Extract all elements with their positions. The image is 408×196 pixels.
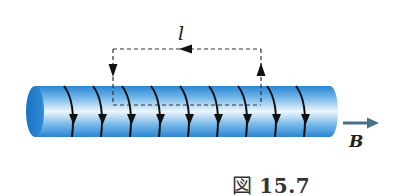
loop-arrow-up-icon — [257, 63, 266, 76]
field-arrow-icon — [343, 118, 379, 129]
field-label: B — [349, 131, 363, 151]
solenoid-figure: l B 図 15.7 — [0, 0, 408, 196]
loop-length-label: l — [178, 22, 184, 44]
loop-arrow-left-icon — [179, 45, 192, 54]
cylinder-end-cap — [26, 86, 44, 137]
caption-prefix: 図 — [232, 174, 253, 196]
figure-caption: 図 15.7 — [232, 170, 310, 196]
loop-arrow-down-icon — [109, 64, 118, 77]
caption-number: 15.7 — [259, 174, 310, 196]
solenoid-diagram — [0, 0, 408, 196]
